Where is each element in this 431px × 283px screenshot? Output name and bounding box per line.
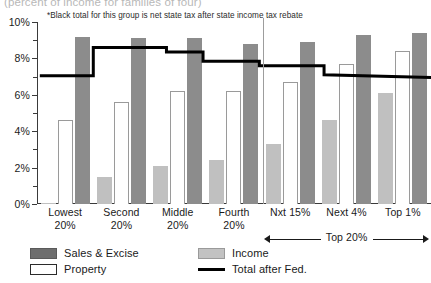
chart-title-cropped: (percent of income for families of four) <box>4 0 202 8</box>
x-label-line1: Lowest <box>48 206 82 218</box>
bracket-line-left <box>270 239 320 240</box>
bracket-label: Top 20% <box>322 231 372 243</box>
x-axis-label-3: Fourth20% <box>206 206 262 231</box>
x-label-line2: 20% <box>206 219 262 232</box>
chart-footnote: *Black total for this group is net state… <box>47 11 303 20</box>
x-label-line2: 20% <box>37 219 93 232</box>
legend-item-income: Income <box>198 247 269 259</box>
x-label-line1: Second <box>103 206 139 218</box>
legend-label-sales: Sales & Excise <box>64 247 139 259</box>
y-axis-label-0: 0% <box>15 198 30 210</box>
plot-area: 0%2%4%6%8%10% <box>37 22 431 204</box>
y-axis-label-6: 6% <box>15 89 30 101</box>
legend-item-property: Property <box>30 263 106 275</box>
x-axis-label-1: Second20% <box>93 206 149 231</box>
x-label-line1: Fourth <box>219 206 250 218</box>
x-axis-label-6: Top 1% <box>375 206 431 219</box>
x-label-line1: Nxt 15% <box>270 206 310 218</box>
top20-divider <box>263 18 264 204</box>
x-axis-label-0: Lowest20% <box>37 206 93 231</box>
y-axis-label-8: 8% <box>15 52 30 64</box>
x-axis-label-4: Nxt 15% <box>262 206 318 219</box>
property-swatch-icon <box>30 264 57 275</box>
legend-item-sales: Sales & Excise <box>30 247 139 259</box>
chart-root: (percent of income for families of four)… <box>0 0 431 283</box>
x-label-line1: Middle <box>162 206 194 218</box>
y-axis-label-2: 2% <box>15 162 30 174</box>
legend-label-total: Total after Fed. <box>232 263 307 275</box>
legend-label-income: Income <box>232 247 269 259</box>
x-label-line2: 20% <box>150 219 206 232</box>
bracket-line-right <box>373 239 423 240</box>
x-label-line1: Next 4% <box>326 206 366 218</box>
bracket-arrow-right <box>423 235 429 243</box>
sales-swatch-icon <box>30 248 57 259</box>
y-axis-label-10: 10% <box>9 16 30 28</box>
x-axis-label-2: Middle20% <box>150 206 206 231</box>
legend-item-total: Total after Fed. <box>198 263 307 275</box>
total-after-fed-line <box>37 22 431 204</box>
x-axis-label-5: Next 4% <box>318 206 374 219</box>
x-label-line1: Top 1% <box>385 206 421 218</box>
y-axis-label-4: 4% <box>15 125 30 137</box>
x-label-line2: 20% <box>93 219 149 232</box>
income-swatch-icon <box>198 248 225 259</box>
total-line-swatch-icon <box>198 264 225 275</box>
y-tick-0 <box>32 204 37 205</box>
top20-bracket: Top 20% <box>37 231 431 247</box>
chart-legend: Sales & Excise Property Income Total aft… <box>30 247 360 279</box>
legend-label-property: Property <box>64 263 106 275</box>
